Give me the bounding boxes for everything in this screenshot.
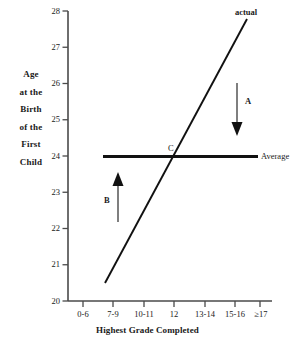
x-axis-title: Highest Grade Completed bbox=[0, 325, 295, 335]
x-tick-label-12: 12 bbox=[170, 310, 179, 319]
y-tick-label-25: 25 bbox=[38, 115, 60, 124]
arrow-a-label: A bbox=[245, 97, 251, 106]
y-tick-label-28: 28 bbox=[38, 7, 60, 16]
x-tick-label-10-11: 10-11 bbox=[134, 310, 154, 319]
average-series-label: Average bbox=[261, 152, 289, 161]
arrow-b-head bbox=[113, 172, 124, 186]
arrow-b bbox=[113, 172, 124, 222]
y-tick-label-22: 22 bbox=[38, 224, 60, 233]
y-tick-label-20: 20 bbox=[38, 297, 60, 306]
y-axis-ticks bbox=[63, 11, 69, 301]
arrow-b-label: B bbox=[104, 196, 110, 205]
y-tick-label-24: 24 bbox=[38, 152, 60, 161]
arrow-a-head bbox=[232, 122, 243, 136]
arrow-a bbox=[232, 83, 243, 136]
intersection-label-c: C bbox=[168, 144, 174, 153]
chart-figure: Age at the Birth of the First Child 28 2… bbox=[0, 0, 295, 342]
x-tick-label-17plus: ≥17 bbox=[254, 310, 267, 319]
x-tick-label-0-6: 0-6 bbox=[77, 310, 88, 319]
actual-series-label: actual bbox=[235, 8, 257, 17]
y-tick-label-27: 27 bbox=[38, 43, 60, 52]
x-tick-label-13-14: 13-14 bbox=[195, 310, 215, 319]
y-tick-label-21: 21 bbox=[38, 260, 60, 269]
x-axis-ticks bbox=[83, 301, 260, 307]
y-tick-label-26: 26 bbox=[38, 79, 60, 88]
actual-line bbox=[105, 19, 247, 283]
x-tick-label-15-16: 15-16 bbox=[225, 310, 245, 319]
x-tick-label-7-9: 7-9 bbox=[107, 310, 118, 319]
y-tick-label-23: 23 bbox=[38, 188, 60, 197]
